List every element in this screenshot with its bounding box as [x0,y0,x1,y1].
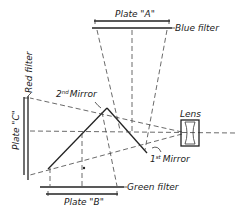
second-mirror-label: 2ndMirror [56,89,98,99]
first-mirror-label: 1stMirror [150,154,191,164]
optical-axis [30,131,236,133]
lens-curve-right [193,122,195,144]
lens-label: Lens [180,109,201,119]
first-mirror [107,108,147,153]
ray-b-right [102,112,117,186]
blue-filter-label: Blue filter [175,23,220,33]
lens-body [181,120,199,146]
green-filter-label: Green filter [127,182,180,192]
plate-b-label: Plate "B" [64,197,104,207]
second-mirror [48,108,107,169]
plate-c-label: Plate "C" [11,110,21,150]
lens-curve-left [185,122,187,144]
ray-a-right [145,30,167,150]
optics-diagram: Plate "A" Blue filter Red filter Plate "… [0,0,239,211]
first-mirror-leader [152,147,161,152]
plate-a-label: Plate "A" [115,9,155,19]
red-filter-label: Red filter [24,50,34,93]
focal-point-dot [83,167,85,169]
second-mirror-leader [95,102,101,108]
ray-c-top [30,98,182,132]
